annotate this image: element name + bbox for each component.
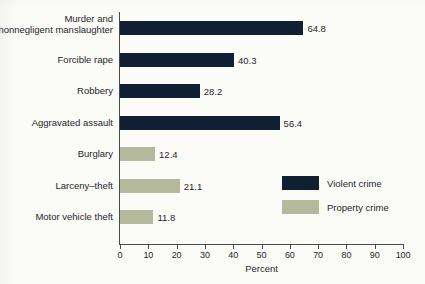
- x-axis-tick: [233, 245, 234, 249]
- x-axis-tick-label: 50: [250, 250, 274, 260]
- category-label-line: Murder and: [0, 13, 113, 24]
- x-axis-tick: [403, 245, 404, 249]
- x-axis-tick-label: 30: [193, 250, 217, 260]
- bar: [120, 116, 280, 130]
- bar: [120, 53, 234, 67]
- bar-value-label: 56.4: [284, 118, 303, 129]
- x-axis-tick: [375, 245, 376, 249]
- category-label-line: nonnegligent manslaughter: [0, 24, 113, 35]
- category-label: Motor vehicle theft: [35, 211, 113, 222]
- category-label: Aggravated assault: [32, 117, 113, 128]
- x-axis-tick: [120, 245, 121, 249]
- x-axis-tick-label: 60: [278, 250, 302, 260]
- bar-value-label: 21.1: [184, 181, 203, 192]
- x-axis-tick: [318, 245, 319, 249]
- bar: [120, 179, 180, 193]
- x-axis-tick-label: 10: [136, 250, 160, 260]
- legend-swatch: [282, 176, 319, 190]
- x-axis-tick: [148, 245, 149, 249]
- x-axis-tick-label: 20: [165, 250, 189, 260]
- bar-value-label: 28.2: [204, 86, 223, 97]
- bar-value-label: 12.4: [159, 149, 178, 160]
- x-axis-tick-label: 100: [391, 250, 415, 260]
- legend-label: Property crime: [327, 202, 389, 213]
- x-axis-tick: [262, 245, 263, 249]
- bar-value-label: 64.8: [307, 23, 326, 34]
- bar-chart: Percent 010203040506070809010064.8Murder…: [0, 0, 425, 284]
- x-axis-title: Percent: [119, 263, 404, 274]
- x-axis-tick: [205, 245, 206, 249]
- x-axis-tick: [290, 245, 291, 249]
- x-axis-tick-label: 70: [306, 250, 330, 260]
- category-label: Murder andnonnegligent manslaughter: [0, 13, 113, 35]
- category-label: Forcible rape: [58, 54, 113, 65]
- bar-value-label: 40.3: [238, 55, 257, 66]
- x-axis-tick: [177, 245, 178, 249]
- x-axis-tick-label: 80: [334, 250, 358, 260]
- x-axis-tick-label: 40: [221, 250, 245, 260]
- bar: [120, 21, 303, 35]
- x-axis-tick: [346, 245, 347, 249]
- category-label: Robbery: [77, 85, 113, 96]
- bar: [120, 210, 153, 224]
- legend-swatch: [282, 200, 319, 214]
- bar-value-label: 11.8: [157, 212, 175, 223]
- bar: [120, 147, 155, 161]
- category-label: Burglary: [78, 148, 113, 159]
- bar: [120, 84, 200, 98]
- x-axis-tick-label: 0: [108, 250, 132, 260]
- x-axis-tick-label: 90: [363, 250, 387, 260]
- legend-label: Violent crime: [327, 178, 382, 189]
- plot-area: Percent 010203040506070809010064.8Murder…: [0, 0, 425, 284]
- category-label: Larceny–theft: [55, 180, 113, 191]
